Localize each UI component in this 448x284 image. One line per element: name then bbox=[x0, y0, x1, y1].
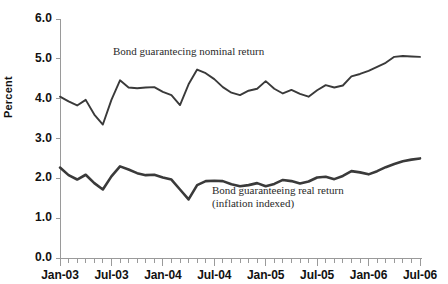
annotation-real-series-label-line2: (inflation indexed) bbox=[212, 197, 294, 210]
annotation-real-series-label-line1: Bond guaranteeing real return bbox=[212, 184, 344, 197]
series-line-nominal-return bbox=[60, 56, 420, 125]
plot-area bbox=[0, 0, 448, 284]
series-lines bbox=[60, 56, 420, 199]
chart-container: Percent 6.05.04.03.02.01.00.0 Jan-03Jul-… bbox=[0, 0, 448, 284]
annotation-nominal-series-label: Bond guarantecing nominal return bbox=[113, 45, 264, 57]
